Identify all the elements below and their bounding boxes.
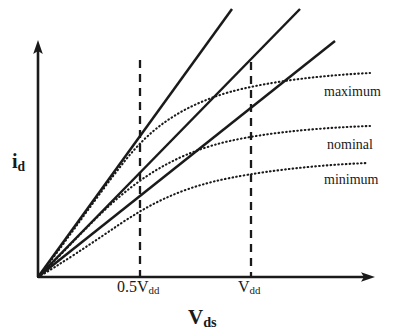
tick-label-vdd-sub: dd — [250, 284, 261, 296]
tick-label-half-vdd-main: 0.5V — [117, 278, 149, 295]
iv-characteristic-figure — [0, 0, 394, 335]
y-axis-label-sub: d — [18, 159, 26, 174]
x-axis-label-sub: ds — [203, 314, 217, 330]
curve-label-minimum: minimum — [324, 172, 378, 188]
x-axis-label-main: V — [188, 305, 203, 329]
tick-label-vdd-main: V — [238, 278, 250, 295]
x-axis-label: Vds — [188, 305, 217, 331]
curve-label-maximum: maximum — [324, 84, 381, 100]
figure-background — [0, 0, 394, 335]
curve-label-nominal: nominal — [327, 137, 373, 153]
y-axis-label: id — [12, 150, 25, 175]
tick-label-vdd: Vdd — [238, 278, 260, 296]
tick-label-half-vdd: 0.5Vdd — [117, 278, 159, 296]
tick-label-half-vdd-sub: dd — [149, 284, 160, 296]
